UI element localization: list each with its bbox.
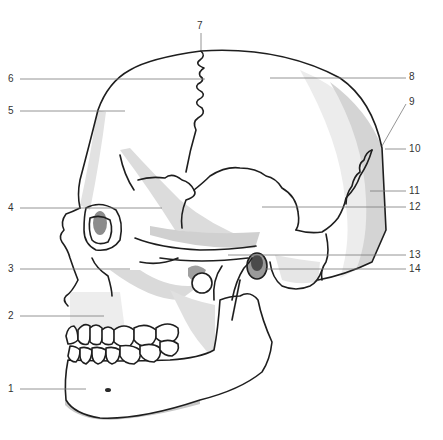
label-14: 14 bbox=[409, 264, 421, 274]
label-11: 11 bbox=[409, 186, 420, 196]
label-12: 12 bbox=[409, 202, 421, 212]
label-6: 6 bbox=[8, 74, 14, 84]
label-3: 3 bbox=[8, 264, 14, 274]
label-4: 4 bbox=[8, 203, 14, 213]
leader-line-9 bbox=[382, 104, 406, 146]
label-5: 5 bbox=[8, 106, 14, 116]
teeth bbox=[66, 324, 178, 364]
skull-illustration bbox=[0, 0, 443, 440]
label-2: 2 bbox=[8, 311, 14, 321]
label-9: 9 bbox=[409, 97, 415, 107]
label-13: 13 bbox=[409, 250, 421, 260]
skull-diagram: 1 2 3 4 5 6 7 8 9 10 11 12 13 14 bbox=[0, 0, 443, 440]
label-8: 8 bbox=[409, 72, 415, 82]
label-7: 7 bbox=[197, 21, 203, 31]
label-10: 10 bbox=[409, 144, 421, 154]
label-1: 1 bbox=[8, 384, 14, 394]
